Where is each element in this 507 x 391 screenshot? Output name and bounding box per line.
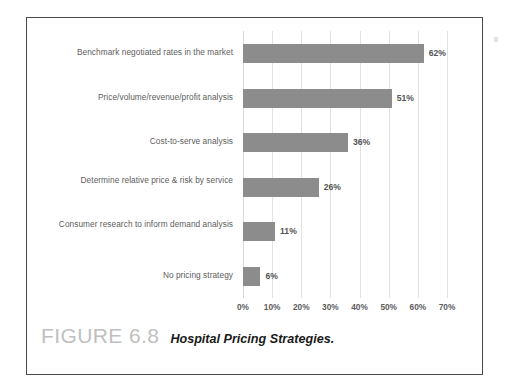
bar: [243, 267, 260, 286]
category-label: Price/volume/revenue/profit analysis: [27, 92, 233, 104]
bar-value-label: 26%: [324, 178, 341, 197]
bar: [243, 178, 319, 197]
category-label: No pricing strategy: [27, 270, 233, 282]
bar-row: Determine relative price & risk by servi…: [27, 165, 484, 210]
x-tick-label: 0%: [228, 302, 258, 312]
bar: [243, 222, 275, 241]
bar: [243, 133, 348, 152]
category-label: Consumer research to inform demand analy…: [27, 219, 233, 231]
x-axis-tick-labels: 0%10%20%30%40%50%60%70%: [243, 302, 473, 318]
figure-number-label: FIGURE 6.8: [41, 324, 159, 348]
bar-value-label: 6%: [265, 267, 277, 286]
bar-value-label: 51%: [397, 89, 414, 108]
x-tick-label: 10%: [257, 302, 287, 312]
scan-artifact-speck: [494, 37, 498, 42]
bar-value-label: 62%: [429, 44, 446, 63]
x-tick-label: 70%: [432, 302, 462, 312]
x-tick-label: 30%: [315, 302, 345, 312]
x-tick-label: 60%: [403, 302, 433, 312]
bar-row: No pricing strategy6%: [27, 254, 484, 299]
category-label: Cost-to-serve analysis: [27, 136, 233, 148]
bar-row: Consumer research to inform demand analy…: [27, 209, 484, 254]
figure-frame: Benchmark negotiated rates in the market…: [26, 17, 483, 375]
x-tick-label: 50%: [374, 302, 404, 312]
bar-row: Price/volume/revenue/profit analysis51%: [27, 76, 484, 121]
figure-caption: FIGURE 6.8 Hospital Pricing Strategies.: [41, 324, 471, 358]
bar-value-label: 11%: [280, 222, 297, 241]
bar: [243, 44, 424, 63]
x-tick-label: 20%: [286, 302, 316, 312]
bar: [243, 89, 392, 108]
category-label: Benchmark negotiated rates in the market: [27, 47, 233, 59]
x-tick-label: 40%: [345, 302, 375, 312]
category-label: Determine relative price & risk by servi…: [27, 175, 233, 187]
bar-chart: Benchmark negotiated rates in the market…: [27, 18, 484, 318]
bar-value-label: 36%: [353, 133, 370, 152]
bar-row: Benchmark negotiated rates in the market…: [27, 31, 484, 76]
figure-title: Hospital Pricing Strategies.: [170, 332, 334, 346]
bar-row: Cost-to-serve analysis36%: [27, 120, 484, 165]
